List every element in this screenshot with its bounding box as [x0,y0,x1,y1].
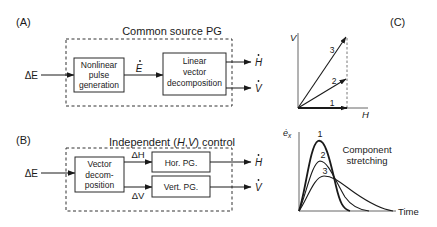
vert-pg-label: Vert. PG. [164,182,199,192]
vector-3-label: 3 [330,45,335,55]
v-axis-label: V [290,32,298,43]
panel-a-title: Common source PG [122,25,222,37]
dot-accent [258,179,260,181]
v-dot-output-label: V [255,182,263,193]
panel-c-tag: (C) [390,16,405,28]
pulse-plot: ėx Time 1 2 3 Component stretching [283,128,419,217]
dot-accent [258,80,260,82]
curve-2-label: 2 [320,150,325,160]
curve-3-label: 3 [322,166,327,176]
pulse-curve-2 [299,161,369,211]
curve-1-label: 1 [317,129,322,139]
block-label-line: vector [183,67,206,77]
figure-canvas: (A) Common source PG ΔE Nonlinear pulse … [0,0,437,227]
delta-v-label: ΔV [132,190,145,201]
dot-accent [258,154,260,156]
e-dot-label: E [136,63,143,74]
time-axis-label: Time [398,206,419,217]
panel-a-input-label: ΔE [25,70,39,81]
hor-pg-label: Hor. PG. [165,158,198,168]
component-stretching-annotation: Component [342,144,391,155]
vector-2-label: 2 [332,76,337,86]
h-axis-label: H [362,109,369,120]
panel-b: (B) Independent (H,V) control ΔE Vector … [16,134,263,211]
dot-accent [258,54,260,56]
delta-h-label: ΔH [131,149,144,160]
h-dot-output-label: H [255,57,263,68]
vector-1-label: 1 [330,98,335,108]
dot-accent [139,60,141,62]
h-dot-output-label: H [255,157,263,168]
v-dot-output-label: V [255,83,263,94]
block-label-line: pulse [89,70,110,80]
panel-b-input-label: ΔE [25,168,39,179]
block-label-line: decomposition [167,78,222,88]
vector-3 [298,37,346,108]
panel-a-tag: (A) [16,16,31,28]
panel-b-title: Independent (H,V) control [109,136,235,148]
block-label-line: Linear [183,56,207,66]
vector-plot: V H 1 2 3 [290,32,369,120]
component-stretching-annotation: stretching [346,155,387,166]
block-label-line: Vector [87,159,111,169]
panel-b-tag: (B) [16,134,31,146]
vector-2 [298,79,346,108]
block-label-line: Nonlinear [81,60,118,70]
panel-c: (C) V H 1 2 3 ėx Time 1 2 3 [283,16,419,217]
panel-a: (A) Common source PG ΔE Nonlinear pulse … [16,16,263,106]
block-label-line: position [85,180,115,190]
block-label-line: decom- [85,170,114,180]
pulse-curve-3 [299,176,393,211]
block-label-line: generation [79,80,119,90]
ex-dot-axis-label: ėx [283,128,292,139]
